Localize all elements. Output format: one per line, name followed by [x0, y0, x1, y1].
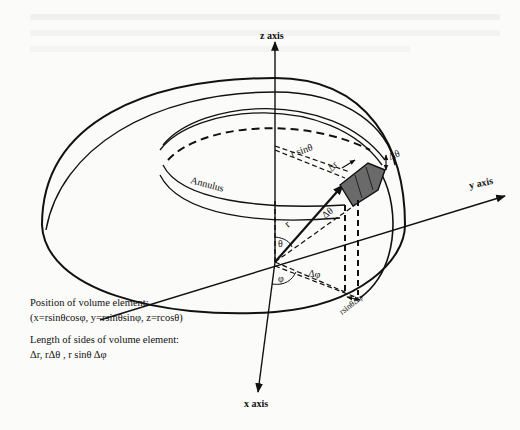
annulus-band-lower: [160, 175, 340, 220]
length-caption-formula: Δr, rΔθ , r sinθ Δφ: [30, 348, 107, 362]
r-sin-theta-label: r sinθ: [289, 141, 314, 158]
position-caption-formula: (x=rsinθcosφ, y=rsinθsinφ, z=rcosθ): [30, 311, 183, 325]
phi-label: φ: [278, 273, 284, 284]
delta-theta-top-label: Δθ: [387, 148, 402, 162]
annulus-band-upper: [163, 165, 345, 206]
hemisphere-figure: Annulus r r sinθ Δr Δθ Δθ θ φ Δφ rsinθΔφ: [0, 0, 520, 430]
z-axis-label: z axis: [260, 30, 284, 42]
spherical-coordinates-diagram: Annulus r r sinθ Δr Δθ Δθ θ φ Δφ rsinθΔφ…: [0, 0, 520, 430]
delta-phi-label: Δφ: [308, 267, 322, 280]
length-caption-title: Length of sides of volume element:: [30, 333, 179, 347]
x-axis-label: x axis: [244, 398, 268, 410]
position-caption-title: Position of volume element:: [30, 296, 149, 310]
theta-label: θ: [278, 238, 283, 249]
volume-element: [340, 163, 385, 206]
y-axis: [100, 196, 505, 320]
annulus-ring-upper: [163, 109, 385, 160]
x-axis: [258, 262, 275, 392]
annulus-ring-back: [168, 128, 370, 160]
